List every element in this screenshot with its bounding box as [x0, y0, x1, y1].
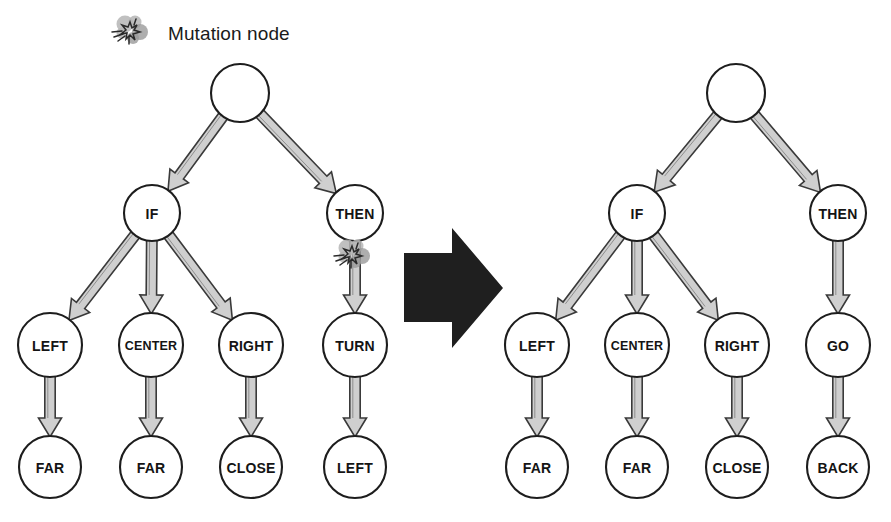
node-label: GO [827, 338, 849, 354]
tree-edge [240, 375, 263, 437]
tree-node[interactable]: LEFT [18, 313, 82, 377]
tree-edge [526, 375, 549, 437]
tree-node[interactable]: RIGHT [219, 313, 283, 377]
diagram-canvas: Mutation node IFTHENLEFTCENTERRIGHTTURNF… [0, 0, 891, 522]
node-label: CENTER [125, 339, 178, 353]
node-circle[interactable] [211, 64, 269, 122]
tree-node[interactable]: CLOSE [706, 436, 768, 498]
tree-edge [750, 110, 821, 192]
node-label: LEFT [519, 338, 555, 354]
node-label: IF [146, 206, 159, 222]
explosion-burst-glyph [112, 16, 148, 45]
mutation-marker-icon [334, 240, 370, 269]
node-label: LEFT [337, 460, 373, 476]
node-label: FAR [137, 460, 166, 476]
right-arrow-icon [404, 228, 503, 348]
tree-edge [163, 231, 232, 320]
node-label: LEFT [32, 338, 68, 354]
tree-edge [626, 375, 649, 437]
node-label: THEN [819, 206, 858, 222]
tree-node[interactable]: IF [609, 185, 665, 241]
tree-edge [827, 239, 850, 314]
node-label: FAR [623, 460, 652, 476]
mutation-tree-diagram: Mutation node IFTHENLEFTCENTERRIGHTTURNF… [0, 0, 891, 522]
tree-node[interactable]: LEFT [505, 313, 569, 377]
tree-node[interactable] [211, 64, 269, 122]
legend-group: Mutation node [112, 16, 290, 45]
mutation-markers-layer [334, 240, 370, 269]
tree-node[interactable]: CENTER [605, 313, 669, 377]
node-label: BACK [817, 460, 858, 476]
tree-node[interactable]: THEN [810, 185, 866, 241]
explosion-burst-icon [112, 16, 148, 45]
tree-edge [654, 110, 723, 192]
tree-edge [39, 375, 62, 437]
node-circle[interactable] [707, 64, 765, 122]
tree-node[interactable]: CLOSE [220, 436, 282, 498]
tree-node[interactable]: LEFT [324, 436, 386, 498]
tree-node[interactable]: TURN [323, 313, 387, 377]
node-label: CENTER [611, 339, 664, 353]
tree-edge [69, 230, 140, 320]
tree-edge [344, 375, 367, 437]
tree-edge [556, 231, 626, 321]
tree-node[interactable]: IF [124, 185, 180, 241]
node-label: CLOSE [226, 460, 275, 476]
tree-node[interactable]: FAR [19, 436, 81, 498]
tree-node[interactable]: BACK [807, 436, 869, 498]
tree-node[interactable]: FAR [120, 436, 182, 498]
tree-node[interactable]: FAR [606, 436, 668, 498]
tree-edge [626, 239, 649, 314]
node-label: CLOSE [712, 460, 761, 476]
tree-edge [649, 231, 719, 321]
node-label: FAR [523, 460, 552, 476]
tree-node[interactable]: CENTER [119, 313, 183, 377]
tree-node[interactable]: FAR [506, 436, 568, 498]
tree-node[interactable] [707, 64, 765, 122]
node-label: IF [631, 206, 644, 222]
tree-edge [827, 375, 850, 437]
tree-edge [168, 112, 228, 192]
tree-node[interactable]: THEN [327, 185, 383, 241]
tree-node[interactable]: RIGHT [705, 313, 769, 377]
legend-label: Mutation node [168, 23, 290, 44]
tree-node[interactable]: GO [806, 313, 870, 377]
tree-edge [255, 109, 336, 194]
node-label: FAR [36, 460, 65, 476]
node-label: THEN [336, 206, 375, 222]
tree-edge [726, 375, 749, 437]
node-label: TURN [335, 338, 375, 354]
node-label: RIGHT [229, 338, 274, 354]
node-label: RIGHT [715, 338, 760, 354]
tree-edge [140, 375, 163, 437]
tree-edge [140, 239, 163, 314]
